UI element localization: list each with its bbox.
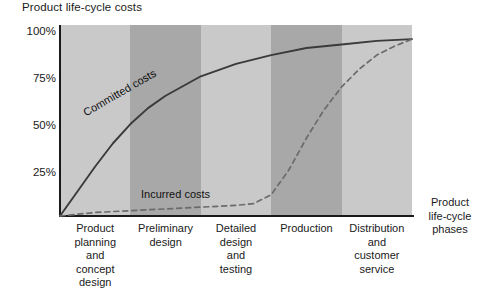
x-category-4: Production: [271, 222, 341, 292]
x-category-5: Distributionandcustomerservice: [342, 222, 412, 292]
chart-figure: Product life-cycle costs 100% 75% 50% 25…: [0, 0, 485, 294]
incurred-costs-curve: [60, 39, 412, 216]
incurred-costs-label: Incurred costs: [141, 188, 210, 200]
x-axis-title: Productlife-cyclephases: [418, 196, 482, 237]
x-category-2: Preliminarydesign: [130, 222, 200, 292]
committed-costs-curve: [60, 39, 412, 216]
x-axis-categories: Productplanningandconceptdesign Prelimin…: [60, 222, 412, 292]
x-category-3: Detaileddesignandtesting: [201, 222, 271, 292]
x-category-1: Productplanningandconceptdesign: [60, 222, 130, 292]
